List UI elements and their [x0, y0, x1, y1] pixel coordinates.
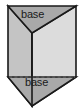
top-base-label: base — [21, 9, 44, 20]
triangular-prism-figure: base base — [0, 0, 84, 112]
bottom-base-label: base — [25, 77, 48, 88]
